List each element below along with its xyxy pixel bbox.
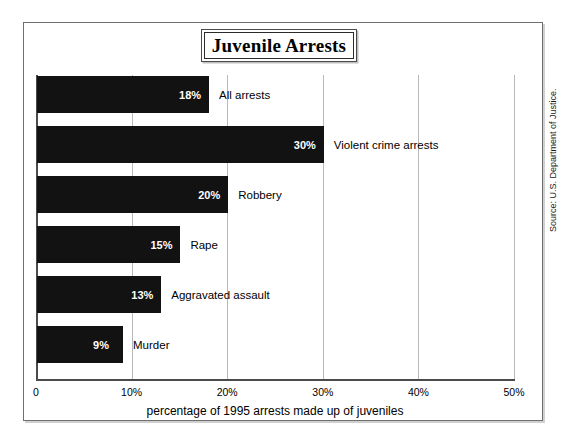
x-axis-tick-label: 40% <box>408 386 429 398</box>
x-axis-tick-label: 20% <box>217 386 238 398</box>
x-axis-tick-label: 0 <box>33 386 39 398</box>
x-axis-tick-label: 10% <box>121 386 142 398</box>
bar-category-label: All arrests <box>219 89 270 101</box>
x-axis-tick-label: 30% <box>312 386 333 398</box>
bar-value-label: 18% <box>179 89 201 101</box>
source-note: Source: U.S. Department of Justice. <box>548 88 558 232</box>
bar-value-label: 13% <box>131 289 153 301</box>
figure-frame: Juvenile Arrests 18%All arrests30%Violen… <box>23 22 543 421</box>
chart-title-plate-inner: Juvenile Arrests <box>204 32 354 59</box>
bar-category-label: Aggravated assault <box>171 289 269 301</box>
bar <box>37 126 324 163</box>
bar-value-label: 20% <box>198 189 220 201</box>
bar-value-label: 30% <box>294 139 316 151</box>
bar <box>37 326 123 363</box>
x-axis-title: percentage of 1995 arrests made up of ju… <box>36 404 514 418</box>
bar-category-label: Rape <box>190 239 218 251</box>
gridline-50% <box>514 75 515 379</box>
x-axis-line <box>36 379 515 381</box>
gridline-40% <box>418 75 419 379</box>
chart-title-plate: Juvenile Arrests <box>201 29 357 62</box>
gridline-20% <box>227 75 228 379</box>
bar-category-label: Violent crime arrests <box>334 139 439 151</box>
bar-value-label: 9% <box>93 339 109 351</box>
bar-category-label: Murder <box>133 339 169 351</box>
bar-category-label: Robbery <box>238 189 281 201</box>
page-title: Juvenile Arrests <box>212 35 346 57</box>
bar-value-label: 15% <box>150 239 172 251</box>
gridline-30% <box>323 75 324 379</box>
plot-area: 18%All arrests30%Violent crime arrests20… <box>36 75 514 379</box>
x-axis-tick-label: 50% <box>503 386 524 398</box>
